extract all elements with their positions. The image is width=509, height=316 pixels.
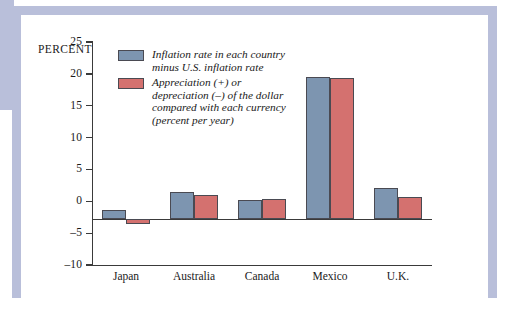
legend-label-line: Appreciation (+) or — [152, 76, 286, 89]
x-category-label: Mexico — [312, 270, 347, 282]
x-category-label: Japan — [113, 270, 139, 282]
bar-canada-series2 — [262, 199, 286, 219]
y-tick-label-wrap: 10 — [34, 131, 82, 145]
y-tick-label-wrap: 5 — [34, 162, 82, 176]
y-tick-label-wrap: –5 — [34, 226, 82, 240]
legend-label-line: Inflation rate in each country — [152, 48, 285, 61]
legend-label: Appreciation (+) ordepreciation (–) of t… — [152, 76, 286, 126]
y-tick-mark — [86, 41, 93, 42]
y-tick-label-wrap: –10 — [34, 258, 82, 272]
y-tick-label: 25 — [42, 35, 82, 47]
legend-label-line: compared with each currency — [152, 101, 286, 114]
bar-canada-series1 — [238, 200, 262, 219]
y-tick-label: 10 — [42, 131, 82, 143]
y-tick-label: 5 — [42, 162, 82, 174]
x-category-label: U.K. — [387, 270, 409, 282]
y-tick-mark — [86, 169, 93, 170]
bar-australia-series1 — [170, 192, 194, 219]
x-axis-line — [92, 265, 432, 266]
bar-australia-series2 — [194, 195, 218, 219]
bar-chart: PERCENT 2520151050–5–10 JapanAustraliaCa… — [0, 0, 509, 316]
y-tick-label: 20 — [42, 67, 82, 79]
bar-uk-series2 — [398, 197, 422, 219]
x-category-label: Australia — [173, 270, 215, 282]
legend-item: Inflation rate in each countryminus U.S.… — [118, 48, 368, 73]
y-tick-mark — [86, 105, 93, 106]
bar-japan-series2 — [126, 219, 150, 224]
y-tick-mark — [86, 233, 93, 234]
y-tick-mark — [86, 201, 93, 202]
y-tick-label-wrap: 25 — [34, 35, 82, 49]
y-tick-label: –10 — [42, 258, 82, 270]
legend-label: Inflation rate in each countryminus U.S.… — [152, 48, 285, 73]
y-tick-label-wrap: 15 — [34, 99, 82, 113]
legend-item: Appreciation (+) ordepreciation (–) of t… — [118, 76, 368, 126]
legend-label-line: minus U.S. inflation rate — [152, 61, 285, 74]
bar-uk-series1 — [374, 188, 398, 219]
legend-label-line: (percent per year) — [152, 114, 286, 127]
legend-swatch — [118, 50, 144, 61]
y-tick-label: 0 — [42, 194, 82, 206]
y-tick-label-wrap: 0 — [34, 194, 82, 208]
bar-japan-series1 — [102, 210, 126, 219]
legend-label-line: depreciation (–) of the dollar — [152, 89, 286, 102]
y-tick-label: 15 — [42, 99, 82, 111]
y-tick-label-wrap: 20 — [34, 67, 82, 81]
y-tick-mark — [86, 264, 93, 265]
y-tick-mark — [86, 73, 93, 74]
chart-page: PERCENT 2520151050–5–10 JapanAustraliaCa… — [0, 0, 509, 316]
chart-legend: Inflation rate in each countryminus U.S.… — [118, 48, 368, 130]
legend-swatch — [118, 78, 144, 89]
y-tick-label: –5 — [42, 226, 82, 238]
x-category-label: Canada — [245, 270, 279, 282]
y-tick-mark — [86, 137, 93, 138]
